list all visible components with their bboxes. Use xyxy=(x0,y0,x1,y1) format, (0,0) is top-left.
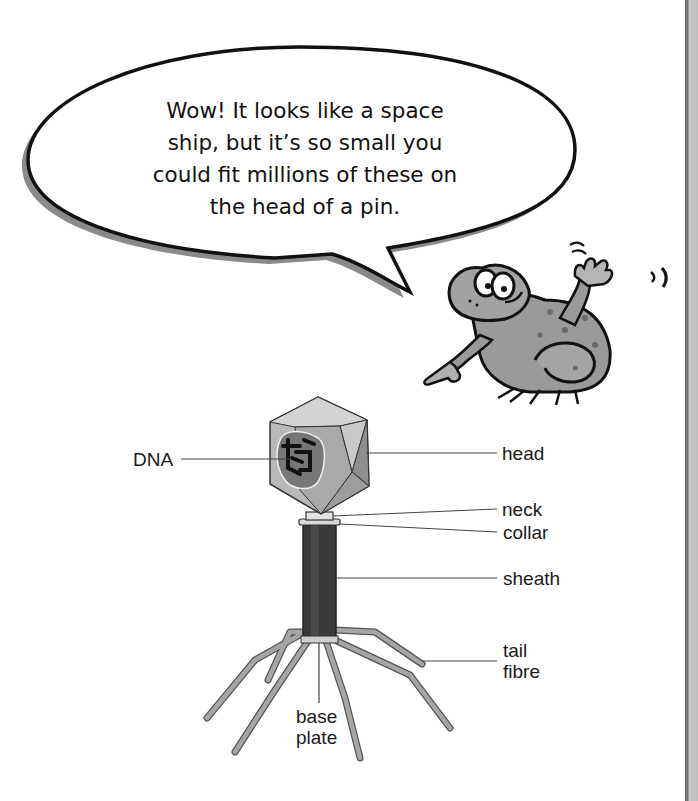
label-tail-fibre-line2: fibre xyxy=(503,661,540,682)
label-collar: collar xyxy=(503,522,548,543)
speech-line: the head of a pin. xyxy=(150,191,460,223)
label-dna: DNA xyxy=(133,449,173,470)
label-head: head xyxy=(502,443,544,464)
label-tail-fibre-line1: tail xyxy=(503,640,527,661)
speech-line: could fit millions of these on xyxy=(150,159,460,191)
page-edge xyxy=(685,0,698,801)
label-base-plate-line2: plate xyxy=(296,727,337,748)
label-base-plate-line1: base xyxy=(296,706,337,727)
speech-bubble-text: Wow! It looks like a space ship, but it’… xyxy=(150,95,460,223)
speech-line: Wow! It looks like a space xyxy=(150,95,460,127)
frog-character xyxy=(424,243,666,405)
label-sheath: sheath xyxy=(503,568,560,589)
label-neck: neck xyxy=(502,499,542,520)
page: Wow! It looks like a space ship, but it’… xyxy=(0,0,698,801)
bacteriophage-diagram xyxy=(181,397,497,758)
speech-line: ship, but it’s so small you xyxy=(150,127,460,159)
